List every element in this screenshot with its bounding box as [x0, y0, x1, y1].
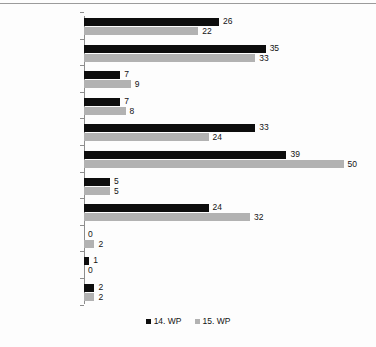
bar-series-14wp — [84, 284, 94, 292]
bar-value-label: 24 — [213, 133, 222, 142]
bar-value-label: 7 — [124, 70, 129, 79]
bar-value-label: 0 — [88, 230, 93, 239]
axis-tick — [80, 12, 84, 13]
bar-value-label: 9 — [135, 80, 140, 89]
legend-item: 14. WP — [146, 316, 182, 326]
bar-series-15wp — [84, 187, 110, 195]
axis-tick — [80, 118, 84, 119]
bar-series-15wp — [84, 107, 126, 115]
axis-tick — [80, 145, 84, 146]
chart-plot-area: Politik2622Wirtschaft3533Infrastruktur79… — [0, 0, 376, 347]
bar-series-14wp — [84, 71, 120, 79]
bar-value-label: 33 — [259, 123, 268, 132]
axis-tick — [80, 198, 84, 199]
bar-value-label: 26 — [223, 17, 232, 26]
bar-series-14wp — [84, 257, 89, 265]
bar-value-label: 0 — [88, 266, 93, 275]
bar-series-15wp — [84, 54, 255, 62]
bar-series-14wp — [84, 18, 219, 26]
bar-series-15wp — [84, 240, 94, 248]
axis-tick — [80, 65, 84, 66]
bar-series-14wp — [84, 124, 255, 132]
axis-tick — [80, 225, 84, 226]
bar-series-15wp — [84, 213, 250, 221]
chart-legend: 14. WP15. WP — [0, 316, 376, 326]
bar-value-label: 39 — [290, 150, 299, 159]
bar-series-15wp — [84, 160, 344, 168]
axis-tick — [80, 39, 84, 40]
bar-series-15wp — [84, 27, 198, 35]
bar-value-label: 24 — [213, 203, 222, 212]
bar-value-label: 50 — [348, 160, 357, 169]
axis-tick — [80, 172, 84, 173]
bar-series-15wp — [84, 80, 131, 88]
bar-series-14wp — [84, 45, 266, 53]
bar-value-label: 35 — [270, 44, 279, 53]
bar-series-14wp — [84, 204, 209, 212]
bar-value-label: 33 — [259, 54, 268, 63]
bar-value-label: 2 — [98, 240, 103, 249]
axis-tick — [80, 92, 84, 93]
bar-series-14wp — [84, 151, 286, 159]
legend-swatch-icon — [146, 319, 151, 324]
legend-label: 14. WP — [154, 316, 182, 326]
bar-series-15wp — [84, 133, 209, 141]
bar-value-label: 5 — [114, 177, 119, 186]
bar-value-label: 5 — [114, 187, 119, 196]
legend-swatch-icon — [195, 319, 200, 324]
bar-value-label: 8 — [130, 107, 135, 116]
legend-label: 15. WP — [203, 316, 231, 326]
bar-value-label: 1 — [93, 256, 98, 265]
bar-series-14wp — [84, 178, 110, 186]
axis-tick — [80, 278, 84, 279]
bar-series-14wp — [84, 98, 120, 106]
bar-value-label: 2 — [98, 283, 103, 292]
axis-tick — [80, 305, 84, 306]
bar-value-label: 7 — [124, 97, 129, 106]
bar-series-15wp — [84, 293, 94, 301]
bar-value-label: 22 — [202, 27, 211, 36]
bar-value-label: 32 — [254, 213, 263, 222]
legend-item: 15. WP — [195, 316, 231, 326]
axis-tick — [80, 251, 84, 252]
bar-value-label: 2 — [98, 293, 103, 302]
